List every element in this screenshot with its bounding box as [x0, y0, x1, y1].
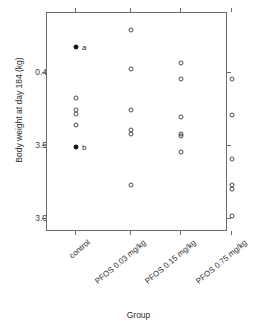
x-tick-mark-2 [180, 231, 181, 235]
data-point-control-4 [74, 123, 79, 128]
data-point-pfos015-5 [179, 134, 184, 139]
data-point-control-1 [74, 96, 79, 101]
x-tick-mark-3 [231, 231, 232, 235]
data-point-pfos015-6 [179, 150, 184, 155]
data-point-pfos015-1 [179, 61, 184, 66]
plot-data-area: a b [47, 13, 226, 230]
data-point-pfos003-2 [129, 67, 134, 72]
data-point-annotation-b: b [82, 143, 86, 152]
data-point-annotation-a: a [82, 43, 86, 52]
data-point-pfos015-3 [179, 115, 184, 120]
data-point-pfos015-2 [179, 77, 184, 82]
data-point-control-b [74, 145, 79, 150]
data-point-pfos075-5 [230, 187, 235, 192]
y-tick-mark-right-1 [227, 145, 231, 146]
data-point-pfos003-1 [129, 28, 134, 33]
data-point-control-a [74, 45, 79, 50]
x-tick-mark-0 [75, 231, 76, 235]
y-axis-title: Body weight at day 184 (kg) [14, 35, 24, 185]
x-axis-title: Group [0, 310, 277, 320]
data-point-pfos003-5 [129, 132, 134, 137]
data-point-pfos075-6 [230, 214, 235, 219]
data-point-pfos003-6 [129, 183, 134, 188]
x-tick-mark-top-3 [231, 8, 232, 12]
data-point-control-3 [74, 112, 79, 117]
data-point-pfos075-3 [230, 157, 235, 162]
data-point-pfos075-2 [230, 113, 235, 118]
y-tick-mark-right-0 [227, 72, 231, 73]
scatter-plot-figure: Body weight at day 184 (kg) 0.4 3.5 3.0 … [0, 0, 277, 328]
plot-panel: a b [46, 12, 227, 231]
data-point-pfos075-1 [230, 77, 235, 82]
data-point-pfos003-3 [129, 108, 134, 113]
x-tick-mark-1 [130, 231, 131, 235]
